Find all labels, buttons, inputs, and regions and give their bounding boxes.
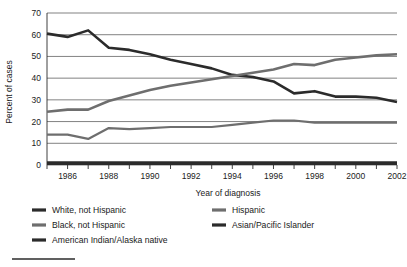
y-tick-label: 40: [32, 73, 42, 83]
y-tick-label: 70: [32, 8, 42, 18]
y-tick-label: 0: [36, 160, 41, 170]
x-tick-label: 1988: [99, 171, 118, 181]
y-tick-label: 50: [32, 51, 42, 61]
legend-label: Asian/Pacific Islander: [232, 220, 314, 230]
legend-label: Hispanic: [232, 205, 266, 215]
y-tick-label: 60: [32, 30, 42, 40]
x-tick-label: 1998: [305, 171, 324, 181]
x-tick-label: 1986: [58, 171, 77, 181]
x-tick-label: 2000: [346, 171, 365, 181]
x-tick-label: 1996: [264, 171, 283, 181]
x-axis-title: Year of diagnosis: [196, 188, 261, 198]
legend-label: American Indian/Alaska native: [52, 235, 168, 245]
line-chart: 010203040506070 198619881990199219941996…: [0, 0, 407, 267]
y-axis-title: Percent of cases: [4, 60, 14, 123]
y-tick-label: 20: [32, 117, 42, 127]
legend-label: White, not Hispanic: [52, 205, 127, 215]
x-axis-tick-labels: 198619881990199219941996199820002002: [58, 171, 407, 181]
x-tick-label: 2002: [388, 171, 407, 181]
x-tick-label: 1994: [223, 171, 242, 181]
legend-label: Black, not Hispanic: [52, 220, 126, 230]
y-tick-label: 30: [32, 95, 42, 105]
x-tick-label: 1990: [140, 171, 159, 181]
x-tick-label: 1992: [182, 171, 201, 181]
y-tick-label: 10: [32, 138, 42, 148]
